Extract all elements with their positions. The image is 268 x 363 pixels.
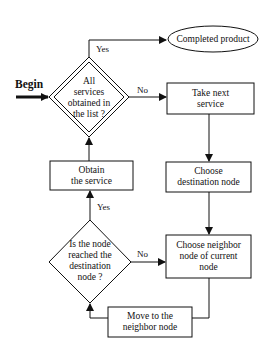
choose-neighbor-line: Choose neighbor bbox=[176, 240, 241, 251]
reached-line: destination bbox=[69, 261, 111, 272]
reached-label: Is the node reached the destination node… bbox=[60, 238, 120, 284]
choose-dest-line: destination node bbox=[177, 177, 240, 188]
move-label: Move to the neighbor node bbox=[108, 307, 192, 337]
edge-move-reached bbox=[90, 304, 108, 318]
all-yes-label: Yes bbox=[96, 44, 109, 54]
obtain-line: Obtain bbox=[79, 165, 105, 176]
all-services-label: All services obtained in the list ? bbox=[59, 76, 119, 120]
all-services-line: All bbox=[83, 76, 95, 87]
reached-yes-label: Yes bbox=[97, 202, 110, 212]
all-services-line: services bbox=[74, 87, 105, 98]
choose-dest-label: Choose destination node bbox=[166, 162, 251, 192]
reached-no-label: No bbox=[137, 249, 148, 259]
all-services-line: the list ? bbox=[73, 109, 105, 120]
move-line: neighbor node bbox=[123, 322, 178, 333]
completed-product-label: Completed product bbox=[168, 33, 258, 45]
all-no-label: No bbox=[137, 85, 148, 95]
take-next-label: Take next service bbox=[167, 84, 254, 114]
all-services-line: obtained in bbox=[68, 98, 110, 109]
reached-line: node ? bbox=[77, 272, 102, 283]
choose-neighbor-label: Choose neighbor node of current node bbox=[166, 235, 251, 278]
reached-line: Is the node bbox=[69, 239, 111, 250]
begin-label: Begin bbox=[15, 78, 43, 90]
obtain-line: the service bbox=[71, 176, 112, 187]
edge-neighbor-move bbox=[192, 278, 209, 318]
choose-neighbor-line: node of current bbox=[179, 251, 237, 262]
take-next-line: service bbox=[197, 99, 224, 110]
choose-neighbor-line: node bbox=[199, 262, 217, 273]
reached-line: reached the bbox=[68, 250, 112, 261]
move-line: Move to the bbox=[127, 311, 173, 322]
obtain-label: Obtain the service bbox=[50, 161, 133, 190]
choose-dest-line: Choose bbox=[194, 166, 223, 177]
take-next-line: Take next bbox=[192, 88, 229, 99]
